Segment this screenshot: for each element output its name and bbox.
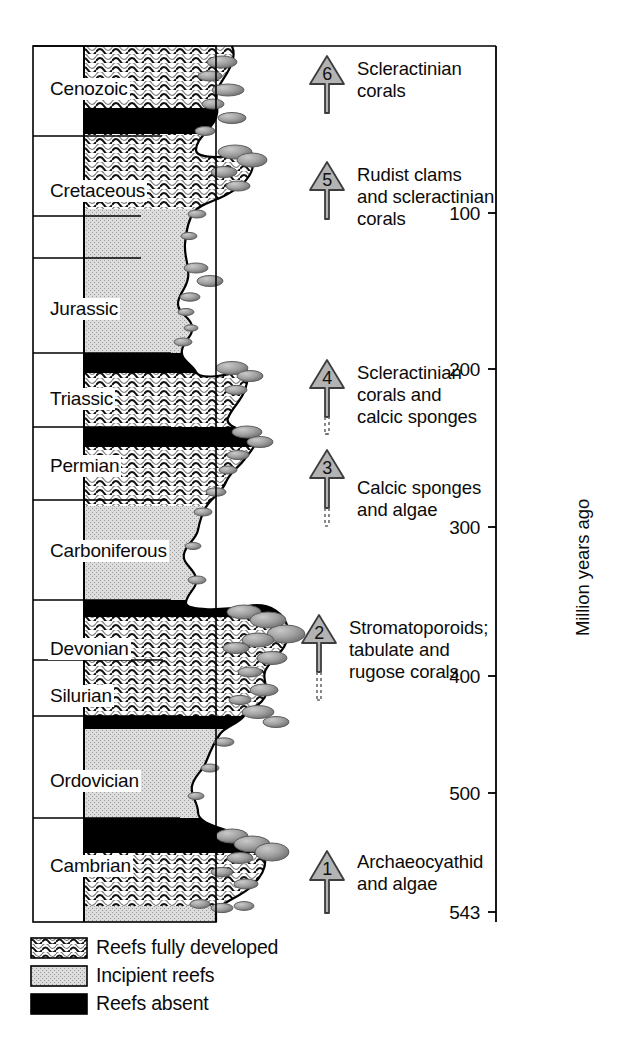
legend-swatch-incipient bbox=[31, 966, 87, 986]
annotation-2-line-2: tabulate and bbox=[349, 639, 450, 661]
period-label-devonian: Devonian bbox=[48, 638, 131, 660]
arrow-number-2: 2 bbox=[302, 624, 336, 642]
annotation-1-line-2: and algae bbox=[357, 873, 437, 895]
annotation-2-line-1: Stromatoporoids; bbox=[349, 617, 488, 639]
axis-tick-300: 300 bbox=[418, 518, 480, 537]
annotation-6-line-2: corals bbox=[357, 80, 406, 102]
annotation-5-line-1: Rudist clams bbox=[357, 164, 462, 186]
annotation-6-line-1: Scleractinian bbox=[357, 58, 462, 80]
annotation-4-line-3: calcic sponges bbox=[357, 406, 477, 428]
axis-tick-200: 200 bbox=[418, 360, 480, 379]
legend-label-absent: Reefs absent bbox=[96, 992, 209, 1014]
axis-title: Million years ago bbox=[574, 499, 593, 636]
time-axis bbox=[488, 46, 496, 922]
legend-swatch-absent bbox=[31, 994, 87, 1014]
legend-swatch-developed bbox=[31, 938, 87, 958]
axis-tick-100: 100 bbox=[418, 204, 480, 223]
axis-tick-400: 400 bbox=[418, 667, 480, 686]
period-label-cenozoic: Cenozoic bbox=[48, 78, 130, 100]
arrow-number-1: 1 bbox=[310, 860, 344, 878]
chart-artwork bbox=[0, 0, 624, 1058]
legend-label-incipient: Incipient reefs bbox=[96, 964, 214, 986]
period-label-ordovician: Ordovician bbox=[48, 770, 141, 792]
annotation-4-line-2: corals and bbox=[357, 384, 441, 406]
arrow-number-5: 5 bbox=[310, 171, 344, 189]
legend-label-developed: Reefs fully developed bbox=[96, 936, 278, 958]
axis-tick-500: 500 bbox=[418, 784, 480, 803]
period-label-silurian: Silurian bbox=[48, 685, 114, 707]
annotation-5-line-3: corals bbox=[357, 208, 406, 230]
period-label-cretaceous: Cretaceous bbox=[48, 180, 147, 202]
period-label-jurassic: Jurassic bbox=[48, 298, 120, 320]
period-label-triassic: Triassic bbox=[48, 388, 115, 410]
period-label-carboniferous: Carboniferous bbox=[48, 540, 169, 562]
period-label-cambrian: Cambrian bbox=[48, 855, 133, 877]
arrow-number-4: 4 bbox=[310, 369, 344, 387]
period-label-permian: Permian bbox=[48, 455, 121, 477]
legend-swatches bbox=[31, 938, 87, 1014]
reef-history-figure: Cenozoic Cretaceous Jurassic Triassic Pe… bbox=[0, 0, 624, 1058]
annotation-1-line-1: Archaeocyathid bbox=[357, 851, 483, 873]
annotation-3-line-1: Calcic sponges bbox=[357, 477, 481, 499]
axis-tick-543: 543 bbox=[418, 903, 480, 922]
arrow-number-6: 6 bbox=[310, 65, 344, 83]
arrow-number-3: 3 bbox=[310, 459, 344, 477]
